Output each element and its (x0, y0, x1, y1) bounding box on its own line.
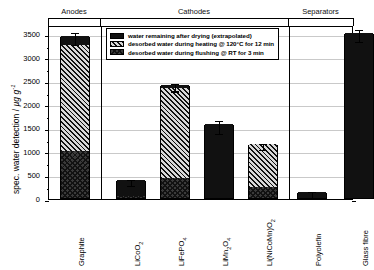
y-axis-tick (45, 59, 49, 60)
y-axis-minor-tick (47, 189, 50, 190)
y-axis-minor-tick (47, 165, 50, 166)
bar-segment (117, 196, 145, 198)
x-axis-label-licoo2: LiCoO2 (133, 242, 144, 266)
group-tick (288, 18, 289, 26)
bar-limn2o4[interactable] (204, 125, 234, 199)
error-bar-cap (259, 150, 267, 151)
group-rule (100, 18, 288, 19)
gridline (49, 130, 352, 131)
y-axis-tick-label: 1000 (6, 148, 40, 157)
y-axis-tick-label: 500 (6, 171, 40, 180)
error-bar-cap (215, 134, 223, 135)
x-axis-label-polyolefin: Polyolefin (314, 233, 323, 266)
y-axis-tick (45, 130, 49, 131)
error-bar (219, 121, 220, 134)
bar-segment (161, 88, 189, 178)
y-axis-tick-label: 2500 (6, 77, 40, 86)
y-axis-tick-right (352, 201, 356, 202)
legend-item: desorbed water during heating @ 120°C fo… (110, 40, 274, 48)
y-axis-tick (45, 201, 49, 202)
gridline (49, 83, 352, 84)
y-axis-minor-tick (47, 48, 50, 49)
y-axis-tick (45, 177, 49, 178)
error-bar-cap (71, 33, 79, 34)
error-bar-cap (71, 45, 79, 46)
error-bar-cap (127, 180, 135, 181)
y-axis-tick (45, 83, 49, 84)
y-axis-tick (45, 36, 49, 37)
group-tick (100, 18, 101, 26)
group-label-anodes: Anodes (48, 7, 100, 16)
error-bar-cap (171, 91, 179, 92)
error-bar-cap (171, 84, 179, 85)
error-bar-cap (308, 192, 316, 193)
legend-swatch (110, 49, 124, 56)
y-axis-tick-label: 1500 (6, 124, 40, 133)
legend-label: water remaining after drying (extrapolat… (128, 32, 252, 39)
legend-item: desorbed water during flushing @ RT for … (110, 48, 274, 56)
group-tick (48, 18, 49, 26)
legend-label: desorbed water during flushing @ RT for … (128, 49, 264, 56)
error-bar (75, 33, 76, 45)
legend-swatch (110, 33, 124, 40)
error-bar (359, 30, 360, 42)
x-axis-label-glass-fibre: Glass fibre (361, 230, 370, 266)
error-bar-cap (355, 30, 363, 31)
x-axis-label-li-nicomn-o2: Li(NiCoMn)O2 (265, 219, 276, 266)
group-tick (353, 18, 354, 26)
y-axis-tick-label: 0 (6, 195, 40, 204)
bar-segment (161, 178, 189, 198)
bar-li-nicomn-o2[interactable] (248, 145, 278, 199)
y-axis-minor-tick (47, 95, 50, 96)
x-axis-label-graphite: Graphite (77, 237, 86, 266)
error-bar-cap (215, 121, 223, 122)
y-axis-tick-label: 3500 (6, 30, 40, 39)
y-axis-tick (45, 106, 49, 107)
group-rule (48, 18, 100, 19)
y-axis-tick-label: 2000 (6, 101, 40, 110)
y-axis-minor-tick (47, 71, 50, 72)
bar-lifepo4[interactable] (160, 86, 190, 199)
y-axis-tick (45, 153, 49, 154)
group-divider (101, 27, 102, 199)
bar-segment (205, 124, 233, 198)
group-divider (289, 27, 290, 199)
x-axis-label-limn2o4: LiMn2O4 (221, 238, 232, 266)
error-bar-cap (127, 186, 135, 187)
bar-glass-fibre[interactable] (344, 34, 374, 199)
gridline (49, 177, 352, 178)
chart-legend: water remaining after drying (extrapolat… (106, 28, 279, 60)
legend-label: desorbed water during heating @ 120°C fo… (128, 40, 274, 47)
bar-segment (61, 45, 89, 150)
y-axis-minor-tick (47, 118, 50, 119)
error-bar-cap (308, 198, 316, 199)
group-label-separators: Separators (288, 7, 353, 16)
group-label-cathodes: Cathodes (100, 7, 288, 16)
error-bar-cap (355, 42, 363, 43)
bar-segment (249, 187, 277, 198)
gridline (49, 153, 352, 154)
group-rule (288, 18, 353, 19)
error-bar-cap (259, 144, 267, 145)
legend-swatch (110, 41, 124, 48)
bar-segment (345, 33, 373, 198)
bar-graphite[interactable] (60, 37, 90, 199)
error-bar (175, 84, 176, 92)
bar-segment (61, 151, 89, 198)
legend-item: water remaining after drying (extrapolat… (110, 32, 274, 40)
gridline (49, 106, 352, 107)
y-axis-tick-label: 3000 (6, 54, 40, 63)
x-axis-label-lifepo4: LiFePO4 (177, 238, 188, 267)
y-axis-minor-tick (47, 142, 50, 143)
